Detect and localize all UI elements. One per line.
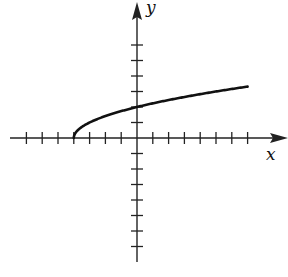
function-curve xyxy=(74,87,248,138)
coordinate-plane: x y xyxy=(0,0,288,277)
axes xyxy=(10,2,288,262)
y-axis-label: y xyxy=(145,0,156,17)
x-axis-label: x xyxy=(266,144,276,164)
